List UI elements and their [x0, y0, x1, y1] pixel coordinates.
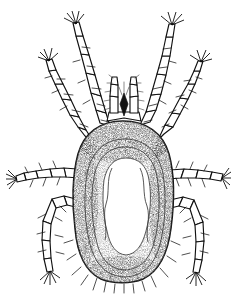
- tick-illustration-figure: [0, 0, 231, 294]
- hypostome: [119, 82, 129, 116]
- leg-2-left-claw-icon: [38, 48, 58, 61]
- palp-right: [130, 75, 144, 113]
- leg-1-left-claw-icon: [64, 11, 84, 24]
- leg-3-left: [6, 161, 79, 189]
- leg-3-right: [168, 161, 231, 189]
- tick-drawing-canvas: [0, 0, 231, 294]
- leg-4-right-claw-icon: [186, 272, 206, 286]
- palp-left: [104, 75, 118, 113]
- leg-3-right-claw-icon: [222, 168, 231, 189]
- leg-4-left-claw-icon: [40, 271, 60, 285]
- leg-3-left-claw-icon: [6, 170, 17, 189]
- capitulum: [104, 75, 144, 121]
- leg-1-right-claw-icon: [161, 12, 184, 25]
- idiosoma: [64, 116, 181, 293]
- leg-2-right-claw-icon: [190, 50, 212, 62]
